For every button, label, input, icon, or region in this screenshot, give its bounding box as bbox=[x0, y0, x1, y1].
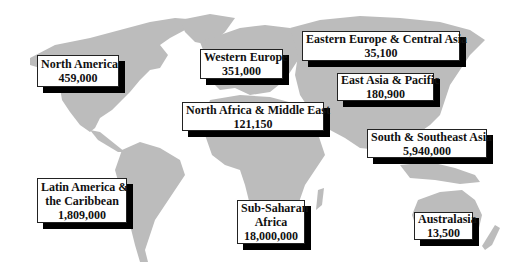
region-name: East Asia & Pacific bbox=[341, 73, 430, 87]
landmass-southeast-asia-islands bbox=[400, 162, 480, 184]
region-value: 351,000 bbox=[204, 64, 279, 78]
region-value: 35,100 bbox=[306, 46, 456, 60]
region-value: 13,500 bbox=[418, 226, 469, 240]
region-name: Western Europe bbox=[204, 50, 279, 64]
landmass-central-america bbox=[90, 130, 125, 152]
region-value: 1,809,000 bbox=[41, 208, 123, 222]
region-value: 5,940,000 bbox=[371, 144, 483, 158]
region-name-line-2: Africa bbox=[241, 215, 301, 229]
region-value: 459,000 bbox=[41, 71, 115, 85]
region-label-north-america: North America 459,000 bbox=[37, 55, 119, 87]
region-label-north-africa-middle-east: North Africa & Middle East 121,150 bbox=[182, 102, 324, 131]
region-name-line-1: Sub-Saharan bbox=[241, 201, 301, 215]
region-label-east-asia-pacific: East Asia & Pacific 180,900 bbox=[337, 73, 434, 101]
region-name: South & Southeast Asia bbox=[371, 130, 483, 144]
region-name: Australasia bbox=[418, 212, 469, 226]
region-name: Eastern Europe & Central Asia bbox=[306, 32, 456, 46]
region-value: 18,000,000 bbox=[241, 229, 301, 243]
region-label-australasia: Australasia 13,500 bbox=[414, 212, 473, 240]
region-value: 121,150 bbox=[186, 117, 320, 131]
region-label-south-southeast-asia: South & Southeast Asia 5,940,000 bbox=[367, 129, 487, 158]
region-label-western-europe: Western Europe 351,000 bbox=[200, 49, 283, 79]
landmass-new-zealand bbox=[482, 225, 500, 250]
region-name-line-2: the Caribbean bbox=[41, 194, 123, 208]
region-label-latin-america-caribbean: Latin America & the Caribbean 1,809,000 bbox=[37, 178, 127, 223]
region-label-sub-saharan-africa: Sub-Saharan Africa 18,000,000 bbox=[237, 200, 305, 244]
region-name: North Africa & Middle East bbox=[186, 103, 320, 117]
landmass-madagascar bbox=[316, 188, 324, 210]
region-name-line-1: Latin America & bbox=[41, 180, 123, 194]
region-value: 180,900 bbox=[341, 87, 430, 101]
region-label-eastern-europe-central-asia: Eastern Europe & Central Asia 35,100 bbox=[302, 31, 460, 61]
region-name: North America bbox=[41, 57, 115, 71]
